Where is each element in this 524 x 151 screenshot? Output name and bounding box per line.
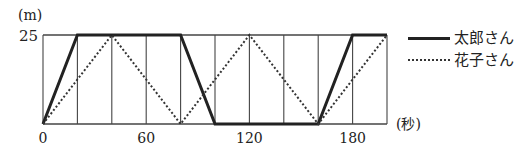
x-tick-label: 60 <box>137 130 155 146</box>
dotted-line-swatch-icon <box>408 59 450 61</box>
legend: 太郎さん 花子さん <box>408 27 514 71</box>
x-tick-label: 0 <box>39 130 48 146</box>
legend-label-hanako: 花子さん <box>454 49 514 71</box>
distance-time-chart: (m) 25 (秒) 060120180 <box>0 0 524 151</box>
y-axis-unit: (m) <box>18 7 42 23</box>
legend-item-taro: 太郎さん <box>408 27 514 49</box>
x-tick-label: 120 <box>236 130 263 146</box>
legend-item-hanako: 花子さん <box>408 49 514 71</box>
y-tick-25: 25 <box>19 27 38 45</box>
x-tick-labels: 060120180 <box>39 130 366 146</box>
x-tick-label: 180 <box>339 130 366 146</box>
legend-label-taro: 太郎さん <box>454 27 514 49</box>
solid-line-swatch-icon <box>408 37 450 40</box>
x-axis-unit: (秒) <box>396 116 421 132</box>
